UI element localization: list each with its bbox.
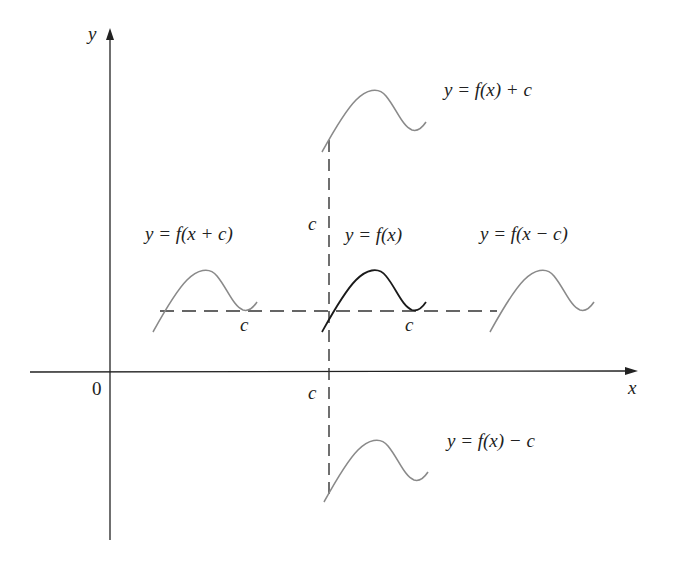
x-axis xyxy=(30,367,638,375)
curve-shift-down xyxy=(324,440,428,502)
y-axis-label: y xyxy=(88,24,96,43)
curve-shift-up xyxy=(322,90,426,152)
label-shift-right: y = f(x − c) xyxy=(480,224,568,243)
curve-shift-right xyxy=(490,270,594,332)
x-axis-arrow-icon xyxy=(625,367,638,375)
y-axis-arrow-icon xyxy=(106,28,114,40)
translation-diagram: y x 0 c c c c y = f(x) y = f(x) + c y = … xyxy=(0,0,675,562)
shift-label-left: c xyxy=(240,315,248,334)
label-shift-left: y = f(x + c) xyxy=(145,224,233,243)
y-axis xyxy=(106,28,114,540)
label-shift-down: y = f(x) − c xyxy=(447,431,535,450)
shift-label-vertical: c xyxy=(308,214,316,233)
x-axis-label: x xyxy=(628,378,636,397)
label-shift-up: y = f(x) + c xyxy=(444,80,532,99)
label-original: y = f(x) xyxy=(345,225,402,244)
diagram-canvas xyxy=(0,0,675,562)
shift-label-right: c xyxy=(405,315,413,334)
shift-label-x-axis: c xyxy=(308,383,316,402)
origin-label: 0 xyxy=(92,379,102,398)
